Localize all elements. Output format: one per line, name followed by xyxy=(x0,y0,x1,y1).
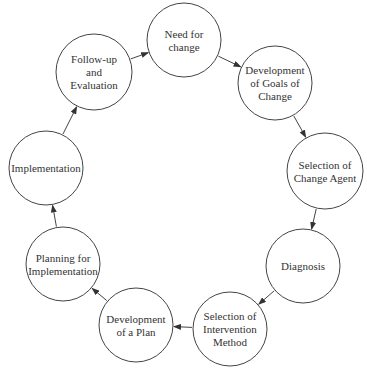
node-development-of-goals-of-change: Developmentof Goals ofChange xyxy=(238,46,312,120)
node-label: Need for xyxy=(165,28,204,40)
node-label: change xyxy=(168,41,199,53)
arrow-development-of-a-plan-to-planning-for-implementation xyxy=(92,288,107,300)
node-label: Intervention xyxy=(203,323,257,335)
arrow-selection-of-change-agent-to-diagnosis xyxy=(312,209,317,229)
arrow-development-of-goals-of-change-to-selection-of-change-agent xyxy=(294,116,306,137)
arrow-follow-up-and-evaluation-to-need-for-change xyxy=(131,53,149,59)
node-label: Development xyxy=(106,313,165,325)
node-label: Selection of xyxy=(204,310,257,322)
node-label: Method xyxy=(213,336,248,348)
node-label: Planning for xyxy=(36,252,91,264)
node-need-for-change: Need forchange xyxy=(147,3,221,77)
node-planning-for-implementation: Planning forImplementation xyxy=(26,227,100,301)
node-label: Development xyxy=(245,64,304,76)
arrow-selection-of-intervention-method-to-development-of-a-plan xyxy=(174,327,192,328)
change-process-cycle-diagram: Need forchangeDevelopmentof Goals ofChan… xyxy=(0,0,367,373)
node-label: Change Agent xyxy=(294,172,357,184)
node-follow-up-and-evaluation: Follow-upandEvaluation xyxy=(56,34,132,110)
node-label: Evaluation xyxy=(70,79,118,91)
node-selection-of-change-agent: Selection ofChange Agent xyxy=(287,133,363,209)
arrow-implementation-to-follow-up-and-evaluation xyxy=(63,107,77,134)
node-label: Change xyxy=(258,90,292,102)
node-development-of-a-plan: Developmentof a Plan xyxy=(99,288,173,362)
node-label: Selection of xyxy=(299,159,352,171)
arrow-need-for-change-to-development-of-goals-of-change xyxy=(218,56,240,67)
node-label: and xyxy=(86,66,102,78)
node-label: Implementation xyxy=(28,265,98,277)
node-implementation: Implementation xyxy=(9,131,83,205)
node-label: Diagnosis xyxy=(281,260,325,272)
arrow-planning-for-implementation-to-implementation xyxy=(53,205,57,226)
node-label: Follow-up xyxy=(71,53,117,65)
node-label: of a Plan xyxy=(116,326,156,338)
node-selection-of-intervention-method: Selection ofInterventionMethod xyxy=(193,292,267,366)
node-label: Implementation xyxy=(11,162,81,174)
nodes: Need forchangeDevelopmentof Goals ofChan… xyxy=(9,3,363,366)
arrow-diagnosis-to-selection-of-intervention-method xyxy=(259,291,274,304)
node-label: of Goals of xyxy=(250,77,300,89)
node-diagnosis: Diagnosis xyxy=(266,229,340,303)
